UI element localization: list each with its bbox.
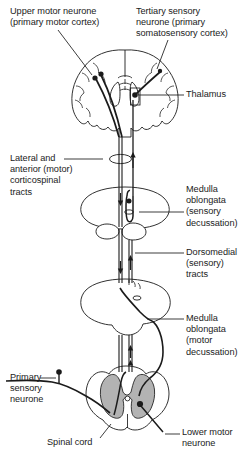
tertiary-sensory-terminal: [158, 69, 162, 73]
cerebrum-structure: [72, 50, 178, 137]
upper-motor-soma-2: [98, 71, 103, 76]
label-corticospinal-tracts: Lateral and anterior (motor) corticospin…: [10, 153, 73, 198]
tract-columns: [119, 137, 132, 372]
label-thalamus: Thalamus: [186, 89, 226, 100]
dorsal-root-ganglion-soma: [56, 369, 62, 375]
leader-upper-motor: [58, 30, 92, 75]
leader-spinal-cord: [100, 424, 111, 438]
spinal-cord-structure: [86, 366, 169, 430]
second-order-soma: [127, 199, 132, 204]
label-lower-motor-neurone: Lower motor neurone: [182, 427, 233, 449]
label-tertiary-sensory-neurone: Tertiary sensory neurone (primary somato…: [136, 6, 228, 40]
label-upper-motor-neurone: Upper motor neurone (primary motor corte…: [10, 6, 99, 28]
spinal-central-canal: [125, 396, 130, 401]
upper-medulla-pyramid-left: [96, 224, 119, 239]
anatomy-diagram: Upper motor neurone (primary motor corte…: [0, 0, 251, 459]
upper-medulla-pyramid-right: [122, 223, 146, 240]
label-medulla-oblongata-motor: Medulla oblongata (motor decussation): [186, 313, 238, 358]
label-primary-sensory-neurone: Primary sensory neurone: [10, 372, 43, 406]
label-medulla-oblongata-sensory: Medulla oblongata (sensory decussation): [186, 184, 238, 229]
thalamus-soma: [132, 92, 138, 98]
upper-motor-soma-1: [92, 75, 97, 80]
label-dorsomedial-tracts: Dorsomedial (sensory) tracts: [186, 247, 237, 281]
label-spinal-cord: Spinal cord: [47, 437, 92, 448]
upper-medulla-outline: [81, 187, 170, 229]
lower-medulla-central-canal: [133, 296, 141, 300]
lower-motor-soma: [137, 401, 143, 407]
corticospinal-tract-marker: [110, 154, 132, 163]
upper-medulla-structure: [81, 187, 170, 240]
